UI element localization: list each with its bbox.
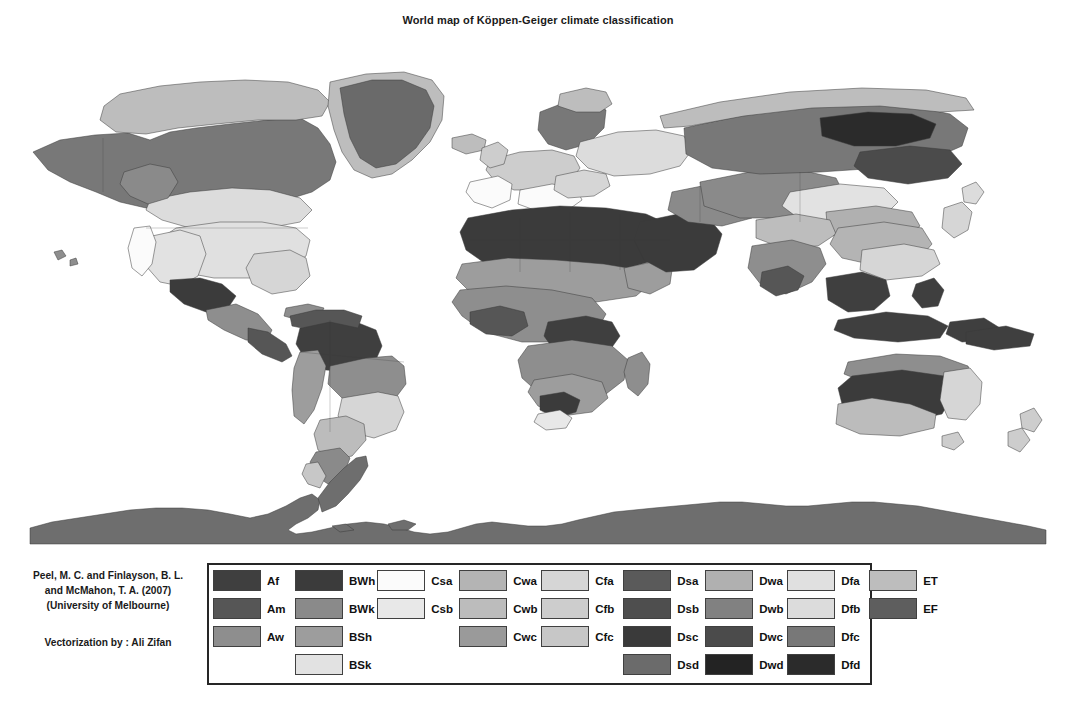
legend-swatch-Dwa [705,570,753,591]
legend-swatch-Cfa [541,570,589,591]
legend-item-Cwa[interactable]: Cwa [459,568,539,593]
legend-swatch-Dwc [705,626,753,647]
legend-item-Csa[interactable]: Csa [377,568,457,593]
attribution-line-1: Peel, M. C. and Finlayson, B. L. [14,568,202,583]
legend-column-group-Cf: CfaCfbCfc [541,568,621,649]
legend-label-Dsc: Dsc [677,631,703,643]
legend-label-Cwb: Cwb [513,603,539,615]
legend-swatch-ET [869,570,917,591]
attribution-block: Peel, M. C. and Finlayson, B. L. and McM… [14,568,202,650]
legend-swatch-BWk [295,598,343,619]
legend-swatch-Cwb [459,598,507,619]
legend-label-BWh: BWh [349,575,375,587]
legend-column-group-E: ETEF [869,568,939,621]
legend-label-Dfc: Dfc [841,631,867,643]
legend-swatch-Dfc [787,626,835,647]
legend-label-Aw: Aw [267,631,293,643]
legend-swatch-EF [869,598,917,619]
legend-label-Af: Af [267,575,293,587]
legend-swatch-Am [213,598,261,619]
legend-item-BSk[interactable]: BSk [295,652,375,677]
legend-item-Dsc[interactable]: Dsc [623,624,703,649]
legend-item-BWk[interactable]: BWk [295,596,375,621]
legend-label-Dsa: Dsa [677,575,703,587]
legend-item-Dfc[interactable]: Dfc [787,624,867,649]
legend-swatch-Csa [377,570,425,591]
attribution-reference: Peel, M. C. and Finlayson, B. L. and McM… [14,568,202,613]
legend-item-Af[interactable]: Af [213,568,293,593]
legend-label-Dwa: Dwa [759,575,785,587]
legend-swatch-BSk [295,654,343,675]
legend-swatch-Dfb [787,598,835,619]
legend-swatch-Dfa [787,570,835,591]
page-title: World map of Köppen-Geiger climate class… [0,14,1076,26]
legend-label-Am: Am [267,603,293,615]
legend-item-Dsb[interactable]: Dsb [623,596,703,621]
legend-swatch-Cwc [459,626,507,647]
legend-swatch-Dsa [623,570,671,591]
legend-item-Am[interactable]: Am [213,596,293,621]
legend-label-Csa: Csa [431,575,457,587]
legend-label-Dwb: Dwb [759,603,785,615]
legend-label-Cwa: Cwa [513,575,539,587]
legend-item-Dwd[interactable]: Dwd [705,652,785,677]
legend-label-EF: EF [923,603,949,615]
legend-swatch-Cfb [541,598,589,619]
legend-label-Dfd: Dfd [841,659,867,671]
legend-label-Dsb: Dsb [677,603,703,615]
legend-item-Dfd[interactable]: Dfd [787,652,867,677]
legend-item-Cfc[interactable]: Cfc [541,624,621,649]
legend-item-BSh[interactable]: BSh [295,624,375,649]
legend-label-Dfb: Dfb [841,603,867,615]
legend-item-Cwb[interactable]: Cwb [459,596,539,621]
legend-label-BSk: BSk [349,659,375,671]
legend-label-ET: ET [923,575,949,587]
legend-item-Cfa[interactable]: Cfa [541,568,621,593]
legend-label-Csb: Csb [431,603,457,615]
legend-label-BSh: BSh [349,631,375,643]
legend-column-group-B: BWhBWkBShBSk [295,568,375,677]
legend-item-BWh[interactable]: BWh [295,568,375,593]
attribution-line-2: and McMahon, T. A. (2007) [14,583,202,598]
legend-item-Dsa[interactable]: Dsa [623,568,703,593]
legend-swatch-Dsd [623,654,671,675]
legend-swatch-BSh [295,626,343,647]
legend-item-EF[interactable]: EF [869,596,939,621]
legend-label-Dsd: Dsd [677,659,703,671]
legend-column-group-Cw: CwaCwbCwc [459,568,539,649]
legend-item-Dwa[interactable]: Dwa [705,568,785,593]
legend-column-group-A: AfAmAw [213,568,293,649]
legend-item-Csb[interactable]: Csb [377,596,457,621]
legend-swatch-Cfc [541,626,589,647]
legend-item-Dsd[interactable]: Dsd [623,652,703,677]
legend-swatch-Csb [377,598,425,619]
legend-label-Cfa: Cfa [595,575,621,587]
legend-swatch-Aw [213,626,261,647]
legend-swatch-Dfd [787,654,835,675]
legend-item-Dwb[interactable]: Dwb [705,596,785,621]
legend-swatch-Dsb [623,598,671,619]
legend-swatch-Af [213,570,261,591]
legend-columns: AfAmAwBWhBWkBShBSkCsaCsbCwaCwbCwcCfaCfbC… [213,568,868,682]
legend-item-Cwc[interactable]: Cwc [459,624,539,649]
map-svg: .land{stroke:#3a3a3a;stroke-width:.5;} .… [0,32,1076,557]
legend-item-ET[interactable]: ET [869,568,939,593]
legend-swatch-BWh [295,570,343,591]
legend-label-BWk: BWk [349,603,375,615]
legend-item-Dwc[interactable]: Dwc [705,624,785,649]
legend-column-group-Ds: DsaDsbDscDsd [623,568,703,677]
legend-item-Dfa[interactable]: Dfa [787,568,867,593]
legend-panel: AfAmAwBWhBWkBShBSkCsaCsbCwaCwbCwcCfaCfbC… [207,563,872,685]
legend-column-group-Dw: DwaDwbDwcDwd [705,568,785,677]
attribution-vectorization: Vectorization by : Ali Zifan [14,635,202,650]
legend-swatch-Dsc [623,626,671,647]
legend-swatch-Dwb [705,598,753,619]
legend-label-Cwc: Cwc [513,631,539,643]
world-map: .land{stroke:#3a3a3a;stroke-width:.5;} .… [0,32,1076,557]
legend-item-Aw[interactable]: Aw [213,624,293,649]
attribution-line-3: (University of Melbourne) [14,598,202,613]
legend-label-Dfa: Dfa [841,575,867,587]
legend-item-Cfb[interactable]: Cfb [541,596,621,621]
legend-label-Cfb: Cfb [595,603,621,615]
legend-item-Dfb[interactable]: Dfb [787,596,867,621]
